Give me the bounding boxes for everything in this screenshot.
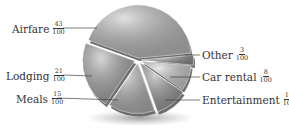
label-entertainment: Entertainment 10100 xyxy=(202,92,289,107)
pie-chart xyxy=(0,0,289,130)
fraction: 10100 xyxy=(283,92,289,107)
label-airfare: Airfare 43100 xyxy=(12,21,65,36)
fraction: 8100 xyxy=(259,69,271,84)
label-other: Other 3100 xyxy=(202,47,248,62)
fraction: 43100 xyxy=(52,21,64,36)
label-lodging: Lodging 21100 xyxy=(6,68,65,83)
label-meals: Meals 15100 xyxy=(16,91,63,106)
fraction: 21100 xyxy=(53,68,65,83)
fraction: 3100 xyxy=(236,47,248,62)
fraction: 15100 xyxy=(51,91,63,106)
label-car-rental: Car rental 8100 xyxy=(202,69,272,84)
